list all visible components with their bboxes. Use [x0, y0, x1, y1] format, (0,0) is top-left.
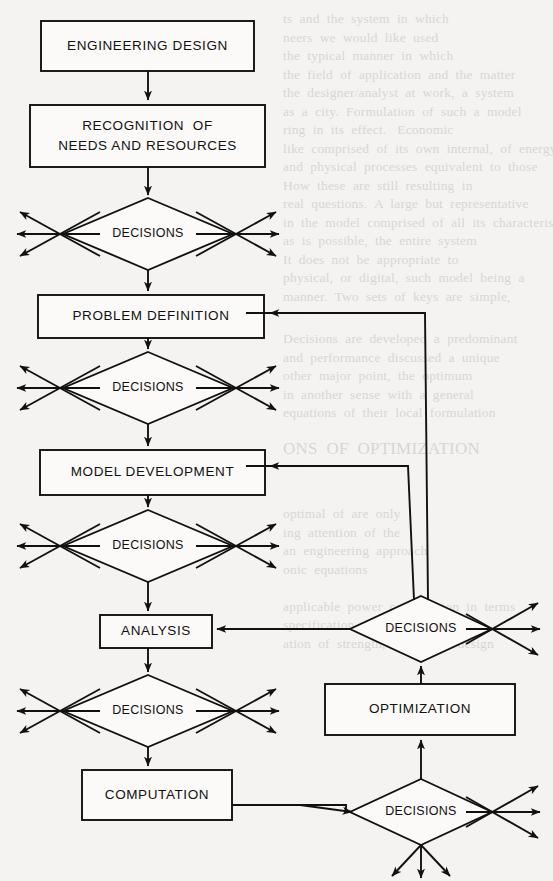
node-engineering-design[interactable]	[41, 21, 254, 71]
node-recognition[interactable]	[30, 105, 265, 167]
node-analysis[interactable]	[100, 615, 212, 648]
fan-decisions-1-left	[17, 212, 100, 256]
flowchart-svg	[0, 0, 553, 881]
node-computation[interactable]	[82, 770, 232, 820]
node-optimization[interactable]	[325, 684, 515, 735]
fan-decisions-6-bottom	[392, 845, 450, 878]
fan-decisions-2-right	[196, 366, 279, 410]
node-problem-definition[interactable]	[38, 295, 264, 338]
fan-decisions-4-right	[196, 689, 279, 733]
fan-decisions-4-left	[17, 689, 100, 733]
edge-computation-to-decisions6-arrow	[300, 805, 352, 812]
edge-decisions5-to-problem	[246, 313, 428, 600]
flowchart-canvas: ts and the system in which neers we woul…	[0, 0, 553, 881]
fan-decisions-3-right	[196, 524, 279, 568]
fan-decisions-2-left	[17, 366, 100, 410]
fan-decisions-6-right	[466, 786, 540, 838]
fan-decisions-1-right	[196, 212, 279, 256]
node-model-development[interactable]	[40, 450, 265, 495]
fan-decisions-3-left	[17, 524, 100, 568]
fan-decisions-5-right	[466, 603, 540, 655]
edge-decisions5-to-model	[246, 466, 414, 600]
